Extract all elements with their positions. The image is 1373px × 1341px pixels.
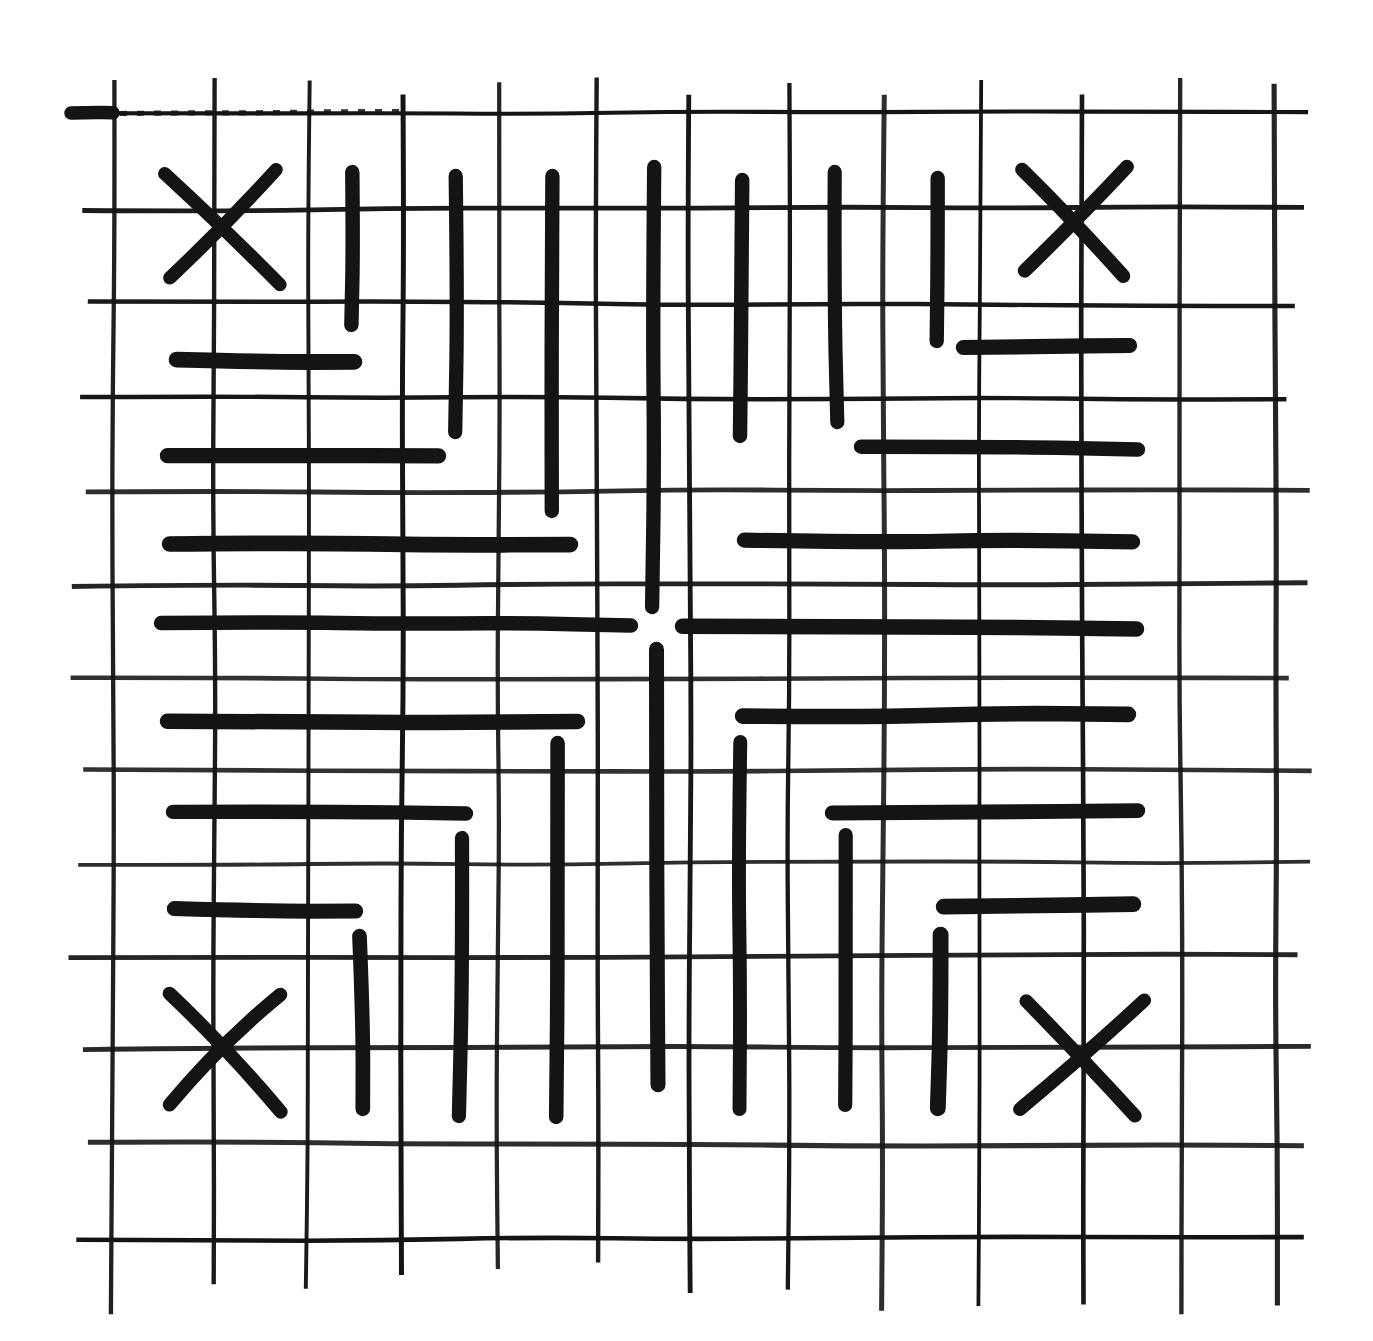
graph-paper-figure bbox=[0, 0, 1373, 1341]
figure-svg bbox=[0, 0, 1373, 1341]
